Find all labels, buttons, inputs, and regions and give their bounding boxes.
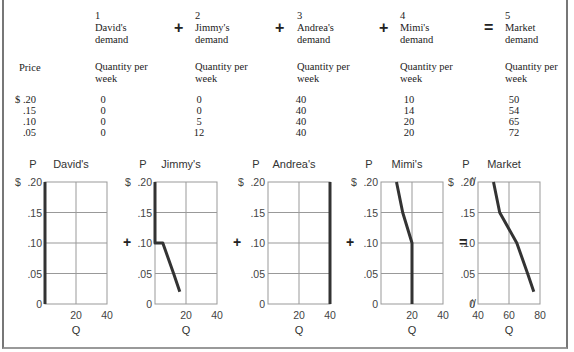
y-tick: .15	[250, 207, 265, 219]
demand-charts: PDavid's.20.15.10.050$2040QPJimmy's.20.1…	[0, 0, 574, 352]
y-tick: .05	[460, 268, 475, 280]
y-tick: 0	[259, 298, 265, 310]
y-tick: .20	[250, 176, 265, 188]
chart-title: Jimmy's	[161, 158, 201, 170]
x-axis-label: Q	[295, 324, 304, 336]
y-tick: .20	[363, 176, 378, 188]
chart-title: David's	[53, 158, 89, 170]
x-tick: 20	[406, 309, 418, 321]
x-tick: 80	[534, 309, 546, 321]
dollar-sign: $	[238, 176, 244, 188]
y-tick: .15	[363, 207, 378, 219]
x-tick: 20	[180, 309, 192, 321]
y-tick: 0	[36, 298, 42, 310]
x-axis-label: Q	[182, 324, 191, 336]
y-tick: .10	[250, 237, 265, 249]
y-tick: .15	[460, 207, 475, 219]
y-axis-label: P	[462, 158, 469, 170]
y-axis-label: P	[29, 158, 36, 170]
demand-curve	[155, 182, 180, 292]
dollar-sign: $	[448, 176, 454, 188]
chart-title: Andrea's	[272, 158, 316, 170]
y-tick: .15	[27, 207, 42, 219]
equals-operator: =	[459, 234, 467, 250]
y-axis-label: P	[365, 158, 372, 170]
x-tick: 60	[503, 309, 515, 321]
y-tick: .10	[27, 237, 42, 249]
y-axis-label: P	[252, 158, 259, 170]
x-tick: 40	[437, 309, 449, 321]
axis-break-icon: //	[470, 297, 476, 309]
y-tick: .05	[363, 268, 378, 280]
dollar-sign: $	[351, 176, 357, 188]
y-tick: 0	[372, 298, 378, 310]
y-tick: .15	[137, 207, 152, 219]
plus-operator: +	[233, 234, 241, 250]
y-tick: .10	[137, 237, 152, 249]
y-tick: .10	[363, 237, 378, 249]
y-tick: 0	[146, 298, 152, 310]
axis-break-icon: //	[470, 175, 476, 187]
x-tick: 40	[211, 309, 223, 321]
plus-operator: +	[346, 234, 354, 250]
dollar-sign: $	[125, 176, 131, 188]
x-axis-label: Q	[505, 324, 514, 336]
x-tick: 40	[324, 309, 336, 321]
y-tick: .05	[250, 268, 265, 280]
demand-curve	[494, 182, 534, 292]
x-tick: 40	[472, 309, 484, 321]
y-tick: .05	[137, 268, 152, 280]
plus-operator: +	[123, 234, 131, 250]
chart-title: Market	[487, 158, 521, 170]
x-tick: 20	[293, 309, 305, 321]
y-axis-label: P	[139, 158, 146, 170]
x-axis-label: Q	[72, 324, 81, 336]
x-tick: 20	[70, 309, 82, 321]
x-tick: 40	[101, 309, 113, 321]
y-tick: .20	[27, 176, 42, 188]
chart-title: Mimi's	[392, 158, 423, 170]
y-tick: .05	[27, 268, 42, 280]
x-axis-label: Q	[408, 324, 417, 336]
dollar-sign: $	[15, 176, 21, 188]
y-tick: .20	[137, 176, 152, 188]
